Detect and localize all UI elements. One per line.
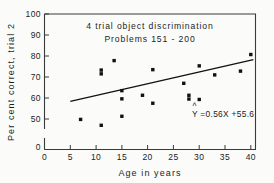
y-ticklabel-60: 60 [31,93,41,103]
y-axis-title: Per cent correct, trial 2 [6,23,16,141]
x-axis-tick-labels: 0 5 10 15 20 25 30 35 40 [42,152,256,162]
x-ticklabel-10: 10 [91,152,101,162]
data-point [182,82,185,85]
data-point [198,64,201,67]
x-ticklabel-0: 0 [42,152,47,162]
x-ticklabel-5: 5 [68,152,73,162]
x-axis-ticks [45,145,251,150]
data-point [249,53,252,56]
x-ticklabel-35: 35 [220,152,230,162]
data-point [151,68,154,71]
data-point [120,97,123,100]
x-ticklabel-25: 25 [168,152,178,162]
data-point [141,94,144,97]
y-ticklabel-0: 0 [36,142,41,152]
data-point [187,97,190,100]
data-point [79,118,82,121]
y-axis-tick-labels: 100 90 80 70 60 50 0 [26,9,41,152]
data-point [100,72,103,75]
data-point [187,94,190,97]
y-axis-ticks [45,14,50,119]
y-ticklabel-80: 80 [31,51,41,61]
data-point [198,98,201,101]
data-point [112,59,115,62]
y-ticklabel-100: 100 [26,9,41,19]
x-ticklabel-15: 15 [117,152,127,162]
data-point [213,73,216,76]
data-point [100,124,103,127]
x-ticklabel-40: 40 [246,152,256,162]
data-point [120,89,123,92]
regression-equation-label: Y =0.56X +55.6 [192,109,254,119]
chart-subtitle: Problems 151 - 200 [104,34,195,44]
y-ticklabel-90: 90 [31,30,41,40]
y-ticklabel-70: 70 [31,72,41,82]
data-point [151,102,154,105]
y-ticklabel-50: 50 [31,114,41,124]
data-point [239,69,242,72]
x-ticklabel-30: 30 [194,152,204,162]
regression-line [70,60,253,102]
x-axis-title: Age in years [118,168,181,178]
chart-canvas: 100 90 80 70 60 50 0 0 5 10 15 20 25 [0,0,274,183]
x-ticklabel-20: 20 [142,152,152,162]
regression-equation-annotation: ^ Y =0.56X +55.6 [192,101,254,119]
scatter-plot-figure: 100 90 80 70 60 50 0 0 5 10 15 20 25 [0,0,274,183]
data-point [120,115,123,118]
data-point [100,68,103,71]
chart-title: 4 trial object discrimination [86,21,213,31]
